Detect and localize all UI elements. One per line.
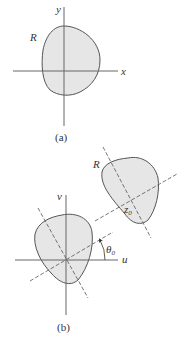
diagram-canvas: y x R (a) R z0 θ0 v u (b) [0, 0, 189, 343]
caption-a: (a) [55, 131, 68, 144]
panel-a: y x R (a) [13, 3, 126, 144]
y-axis-label: y [55, 3, 61, 15]
angle-label-subscript: 0 [111, 249, 115, 257]
point-label-subscript: 0 [128, 209, 132, 217]
panel-b: R z0 θ0 v u (b) [15, 147, 177, 334]
angle-label: θ0 [106, 243, 115, 257]
v-axis-label: v [57, 190, 62, 202]
caption-b: (b) [57, 321, 70, 334]
region-label-a: R [29, 31, 37, 43]
region-label-b: R [92, 158, 100, 170]
u-axis-label: u [122, 253, 128, 265]
angle-arc [100, 240, 105, 260]
x-axis-label: x [120, 65, 126, 77]
region-r-a [42, 26, 100, 95]
